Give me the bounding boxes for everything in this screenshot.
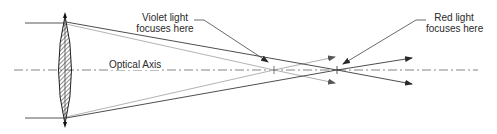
chromatic-aberration-diagram: Violet light focuses here Red light focu… (0, 0, 497, 134)
diagram-canvas (0, 0, 497, 134)
optical-axis-label: Optical Axis (108, 59, 162, 70)
violet-focus-label: Violet light focuses here (134, 12, 196, 34)
violet-rays (66, 24, 335, 117)
lens-bottom-tip (63, 122, 67, 128)
violet-label-line1: Violet light (134, 12, 196, 23)
red-leader-line (343, 20, 426, 64)
lens-top-tip (63, 12, 67, 18)
red-label-line2: focuses here (426, 23, 482, 34)
red-label-line1: Red light (426, 12, 482, 23)
red-focus-label: Red light focuses here (426, 12, 482, 34)
violet-label-line2: focuses here (134, 23, 196, 34)
